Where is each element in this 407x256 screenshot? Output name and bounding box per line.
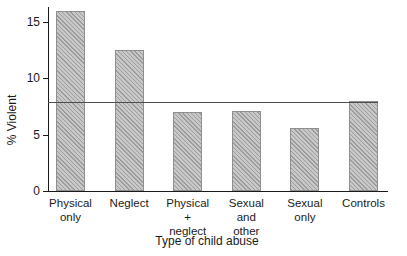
y-tick-label: 0 xyxy=(16,185,40,197)
bar xyxy=(349,101,378,191)
x-axis-title: Type of child abuse xyxy=(155,234,258,248)
category-label-line: Sexual xyxy=(287,196,322,210)
y-tick-label: 5 xyxy=(16,129,40,141)
category-label-line: Physical xyxy=(49,196,92,210)
x-axis-line xyxy=(48,191,388,192)
category-label-line: only xyxy=(287,210,322,224)
category-label: Sexualonly xyxy=(287,196,322,224)
y-tick-mark xyxy=(43,191,48,192)
y-tick-label: 10 xyxy=(16,72,40,84)
category-label: Controls xyxy=(342,196,385,210)
bar-chart-figure: % Violent 051015PhysicalonlyNeglectPhysi… xyxy=(0,0,407,256)
category-label: Physical+neglect xyxy=(166,196,209,238)
category-label-line: Sexual xyxy=(229,196,264,210)
bar xyxy=(232,111,261,191)
y-tick-mark xyxy=(43,78,48,79)
category-label-line: Physical xyxy=(166,196,209,210)
y-tick-mark xyxy=(43,135,48,136)
category-label-line: only xyxy=(49,210,92,224)
bar xyxy=(173,112,202,191)
category-label: Physicalonly xyxy=(49,196,92,224)
category-label: Sexualandother xyxy=(229,196,264,238)
reference-line xyxy=(48,102,378,103)
category-label-line: Neglect xyxy=(110,196,149,210)
y-tick-mark xyxy=(43,22,48,23)
category-label-line: and xyxy=(229,210,264,224)
bar xyxy=(115,50,144,191)
bar xyxy=(290,128,319,191)
y-tick-label: 15 xyxy=(16,16,40,28)
category-label-line: + xyxy=(166,210,209,224)
category-label-line: Controls xyxy=(342,196,385,210)
y-axis-line xyxy=(48,7,49,192)
category-label: Neglect xyxy=(110,196,149,210)
